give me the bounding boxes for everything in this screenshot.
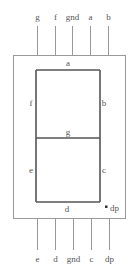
seven-segment-diagram: g f gnd a b a b c d e f g dp e d g [0,0,134,275]
bottom-pin-label: gnd [67,254,81,264]
top-pin-label: b [106,12,111,22]
segment-label-d: d [65,204,70,214]
top-pins [38,26,109,55]
top-pin-label: a [89,12,93,22]
bottom-pin-label: e [36,254,40,264]
segment-label-c: c [102,165,106,175]
decimal-point-dot [105,206,108,209]
top-pin-label: gnd [66,12,80,22]
bottom-pin-labels: e d gnd c dp [36,254,115,264]
segment-labels: a b c d e f g dp [29,58,120,214]
segment-label-f: f [30,98,33,108]
top-pin-labels: g f gnd a b [35,12,111,22]
bottom-pin-label: c [90,254,94,264]
display-package-outline [14,56,126,219]
top-pin-label: f [54,12,57,22]
segment-label-dp: dp [110,203,120,213]
segment-label-e: e [29,165,33,175]
bottom-pins [38,219,110,250]
segment-label-a: a [66,58,70,68]
bottom-pin-label: dp [105,254,115,264]
segment-label-g: g [66,127,71,137]
segment-label-b: b [102,98,107,108]
top-pin-label: g [35,12,40,22]
bottom-pin-label: d [53,254,58,264]
